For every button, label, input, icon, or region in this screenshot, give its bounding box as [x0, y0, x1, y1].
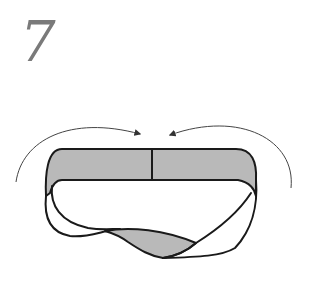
mobius-strip-diagram: [0, 0, 321, 298]
band-bottom-twist: [105, 229, 196, 258]
band-left-loop: [46, 196, 112, 236]
band-left-inner: [52, 186, 120, 229]
band-top-face: [46, 149, 256, 196]
mobius-band: [46, 149, 257, 258]
